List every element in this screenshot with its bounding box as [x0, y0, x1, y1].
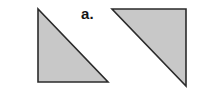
triangles-figure: [0, 0, 197, 89]
figure-label-a: a.: [81, 6, 94, 21]
figure-container: a.: [0, 0, 197, 89]
